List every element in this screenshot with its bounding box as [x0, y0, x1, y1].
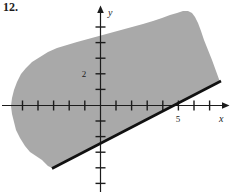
x-axis-label: x [218, 113, 224, 124]
y-axis-arrowhead [97, 6, 104, 14]
x-axis-arrowhead [222, 102, 230, 109]
y-axis-label: y [107, 7, 113, 18]
figure-root: 12. [0, 0, 231, 195]
shaded-region [11, 11, 220, 168]
coordinate-plane-plot: y x 2 5 [0, 0, 231, 195]
y-tick-label-2: 2 [82, 69, 87, 79]
x-tick-label-5: 5 [176, 114, 181, 124]
